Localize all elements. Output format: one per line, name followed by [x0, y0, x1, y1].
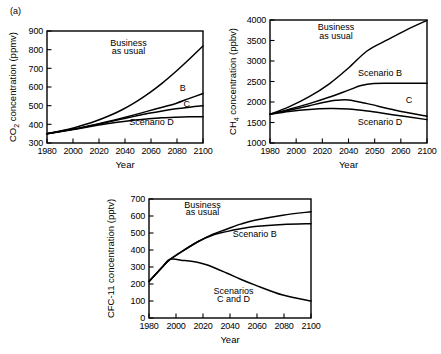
- co2-ytick-label: 700: [29, 64, 44, 74]
- ch4-ytick-label: 3000: [247, 56, 266, 66]
- cfc11-xtick-label: 2000: [166, 321, 185, 331]
- co2-xtick-label: 2060: [141, 146, 160, 156]
- ch4-xtick-label: 2050: [365, 146, 384, 156]
- cfc11-ytick-label: 700: [131, 194, 146, 204]
- co2-ytick-label: 800: [29, 45, 44, 55]
- ch4-annotation: C: [406, 95, 413, 105]
- ch4-xtick-label: 1980: [260, 146, 279, 156]
- cfc11-xtick-label: 2100: [301, 321, 320, 331]
- ch4-ytick-label: 3500: [247, 36, 266, 46]
- svg-text:CH4 concentration (ppbv): CH4 concentration (ppbv): [227, 28, 240, 135]
- ch4-annotation: Scenario B: [358, 68, 402, 78]
- co2-curve: [47, 94, 203, 134]
- ch4-xtick-label: 2040: [339, 146, 358, 156]
- cfc11-ytick-label: 400: [131, 245, 146, 255]
- svg-text:CO2 concentration (ppmv): CO2 concentration (ppmv): [7, 32, 20, 142]
- co2-xtick-label: 2100: [193, 146, 212, 156]
- figure-scenario-projections: (a) 300400500600700800900198020002020204…: [0, 0, 441, 354]
- ch4-curve: [270, 109, 427, 120]
- chart-panel-co2: (a) 300400500600700800900198020002020204…: [0, 0, 215, 190]
- co2-ytick-label: 900: [29, 26, 44, 36]
- ch4-xtick-label: 2060: [391, 146, 410, 156]
- svg-text:CFC-11 concentration (pptv): CFC-11 concentration (pptv): [105, 199, 116, 318]
- cfc11-xtick-label: 2080: [274, 321, 293, 331]
- co2-ytick-label: 600: [29, 82, 44, 92]
- ch4-ytick-label: 2500: [247, 77, 266, 87]
- co2-yaxis-title: CO2 concentration (ppmv): [7, 32, 20, 142]
- cfc11-xtick-label: 2020: [193, 321, 212, 331]
- co2-xtick-label: 2080: [167, 146, 186, 156]
- cfc11-yaxis-title: CFC-11 concentration (pptv): [105, 199, 116, 318]
- cfc11-ytick-label: 300: [131, 262, 146, 272]
- cfc11-ytick-label: 200: [131, 279, 146, 289]
- ch4-ytick-label: 4000: [247, 15, 266, 25]
- cfc11-xtick-label: 2060: [247, 321, 266, 331]
- chart-panel-ch4: 1000150020002500300035004000198020002020…: [222, 0, 441, 190]
- ch4-annotation: Scenario D: [358, 117, 403, 127]
- co2-annotation: as usual: [112, 46, 146, 56]
- panel-tag-a: (a): [10, 6, 21, 16]
- ch4-ytick-label: 1500: [247, 118, 266, 128]
- co2-svg: (a) 300400500600700800900198020002020204…: [0, 0, 215, 190]
- cfc11-xaxis-title: Year: [220, 334, 239, 345]
- ch4-xaxis-title: Year: [339, 159, 358, 170]
- cfc11-curve: [149, 212, 311, 282]
- ch4-annotation: as usual: [319, 31, 353, 41]
- ch4-xtick-label: 2100: [417, 146, 436, 156]
- cfc11-svg: 0100200300400500600700198020002020204020…: [100, 188, 340, 354]
- co2-ytick-label: 500: [29, 101, 44, 111]
- ch4-svg: 1000150020002500300035004000198020002020…: [222, 0, 441, 190]
- co2-xtick-label: 2000: [63, 146, 82, 156]
- co2-xtick-label: 1980: [37, 146, 56, 156]
- co2-annotation: B: [180, 83, 186, 93]
- cfc11-xtick-label: 2040: [220, 321, 239, 331]
- ch4-yaxis-title: CH4 concentration (ppbv): [227, 28, 240, 135]
- cfc11-annotation: Scenario B: [233, 229, 277, 239]
- ch4-xtick-label: 2020: [313, 146, 332, 156]
- cfc11-annotation: as usual: [186, 207, 220, 217]
- co2-xaxis-title: Year: [115, 159, 134, 170]
- cfc11-curve: [149, 224, 311, 282]
- ch4-xtick-label: 2000: [287, 146, 306, 156]
- chart-panel-cfc11: 0100200300400500600700198020002020204020…: [100, 188, 340, 354]
- cfc11-ytick-label: 600: [131, 211, 146, 221]
- co2-annotation: Scenario D: [129, 117, 174, 127]
- cfc11-ytick-label: 100: [131, 296, 146, 306]
- co2-annotation: C: [183, 99, 190, 109]
- cfc11-xtick-label: 1980: [139, 321, 158, 331]
- co2-xtick-label: 2020: [89, 146, 108, 156]
- cfc11-annotation: C and D: [217, 294, 251, 304]
- co2-curve: [47, 117, 203, 134]
- co2-xtick-label: 2040: [115, 146, 134, 156]
- ch4-ytick-label: 2000: [247, 97, 266, 107]
- co2-ytick-label: 400: [29, 120, 44, 130]
- cfc11-ytick-label: 500: [131, 228, 146, 238]
